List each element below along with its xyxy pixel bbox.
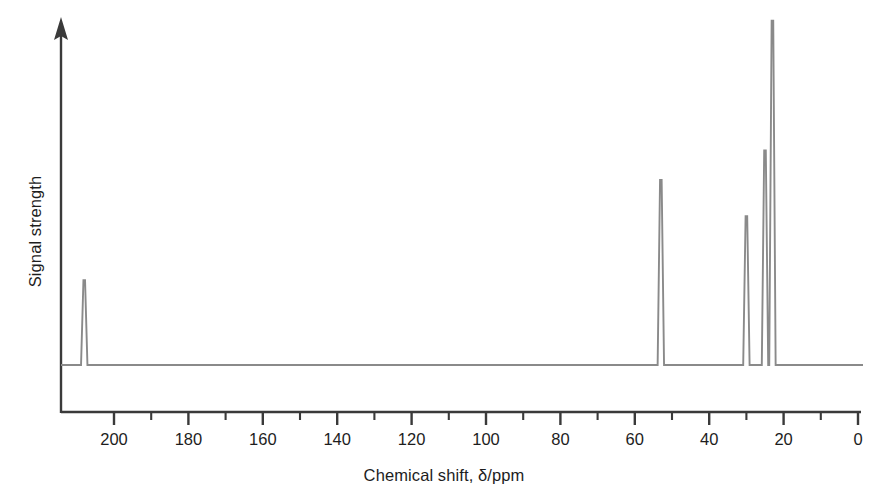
x-axis-tick-label: 40 [700, 430, 718, 449]
x-axis-ticks [114, 412, 858, 425]
x-axis-tick-label: 20 [774, 430, 792, 449]
spectrum-plot [0, 0, 888, 501]
spectrum-trace-group [61, 21, 863, 365]
x-axis-tick-label: 140 [323, 430, 351, 449]
x-axis-title: Chemical shift, δ/ppm [0, 466, 888, 485]
x-axis-tick-label: 100 [472, 430, 500, 449]
y-axis [54, 17, 68, 413]
x-axis-tick-label: 200 [100, 430, 128, 449]
y-axis-title: Signal strength [26, 122, 45, 342]
x-axis-tick-label: 0 [853, 430, 862, 449]
x-axis-tick-label: 60 [626, 430, 644, 449]
x-axis-tick-label: 80 [551, 430, 569, 449]
x-axis-tick-label: 180 [175, 430, 203, 449]
nmr-spectrum-figure: 200180160140120100806040200 Chemical shi… [0, 0, 888, 501]
spectrum-trace [61, 21, 863, 365]
x-axis [61, 412, 861, 425]
x-axis-tick-label: 160 [249, 430, 277, 449]
x-axis-tick-label: 120 [398, 430, 426, 449]
